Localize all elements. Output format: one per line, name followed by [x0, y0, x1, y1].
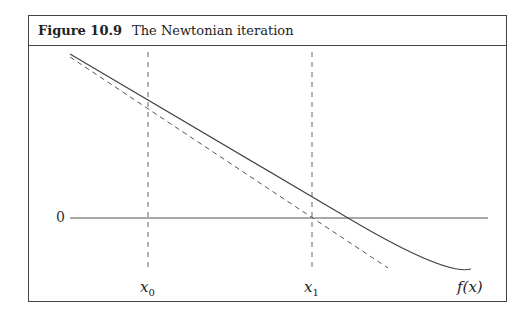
zero-label: 0: [56, 209, 65, 225]
tangent-line: [70, 57, 388, 268]
newton-diagram: [0, 0, 532, 317]
fx-label: f(x): [457, 278, 483, 296]
x0-subscript: 0: [148, 287, 154, 298]
x0-label: x0: [140, 278, 155, 298]
x1-subscript: 1: [312, 287, 318, 298]
x1-label: x1: [304, 278, 319, 298]
function-curve: [70, 54, 471, 270]
